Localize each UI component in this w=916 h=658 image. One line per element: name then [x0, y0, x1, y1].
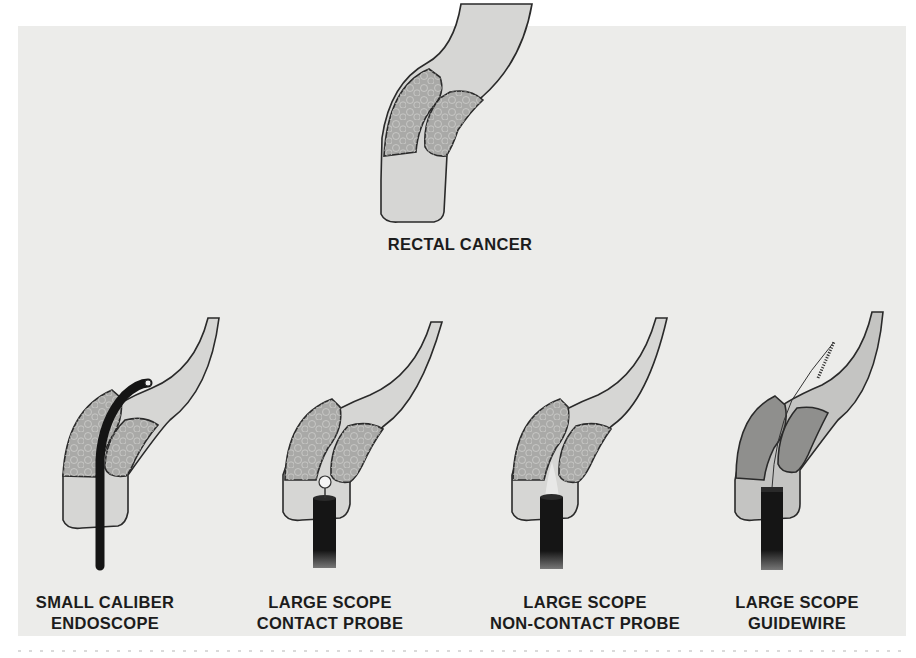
label-line-1: LARGE SCOPE	[225, 592, 435, 613]
rectal-cancer-diagram	[0, 0, 916, 658]
label-small-caliber-endoscope: SMALL CALIBER ENDOSCOPE	[10, 592, 200, 634]
contact-probe-tip	[319, 476, 331, 488]
panel-non-contact-probe-illustration	[512, 318, 667, 569]
rectal-cancer-illustration	[381, 4, 532, 222]
label-large-scope-guidewire: LARGE SCOPE GUIDEWIRE	[712, 592, 882, 634]
label-line-2: ENDOSCOPE	[10, 613, 200, 634]
label-large-scope-contact-probe: LARGE SCOPE CONTACT PROBE	[225, 592, 435, 634]
label-line-1: SMALL CALIBER	[10, 592, 200, 613]
label-line-2: GUIDEWIRE	[712, 613, 882, 634]
label-line-1: LARGE SCOPE	[712, 592, 882, 613]
large-scope	[540, 497, 563, 569]
label-large-scope-non-contact-probe: LARGE SCOPE NON-CONTACT PROBE	[470, 592, 700, 634]
panel-guidewire-illustration	[735, 312, 883, 570]
panel-small-caliber-illustration	[63, 318, 219, 566]
panel-contact-probe-illustration	[283, 322, 442, 568]
large-scope	[313, 498, 336, 568]
label-line-2: NON-CONTACT PROBE	[470, 613, 700, 634]
caption-remnant	[18, 650, 908, 652]
label-line-2: CONTACT PROBE	[225, 613, 435, 634]
label-rectal-cancer: RECTAL CANCER	[330, 234, 590, 255]
label-line-1: LARGE SCOPE	[470, 592, 700, 613]
large-scope	[761, 490, 783, 570]
